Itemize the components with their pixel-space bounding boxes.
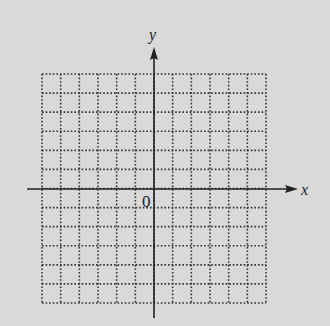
x-axis-label: x [300, 181, 308, 198]
y-axis-label: y [147, 26, 157, 44]
coordinate-plane: x y 0 [0, 0, 330, 326]
origin-label: 0 [142, 192, 151, 211]
